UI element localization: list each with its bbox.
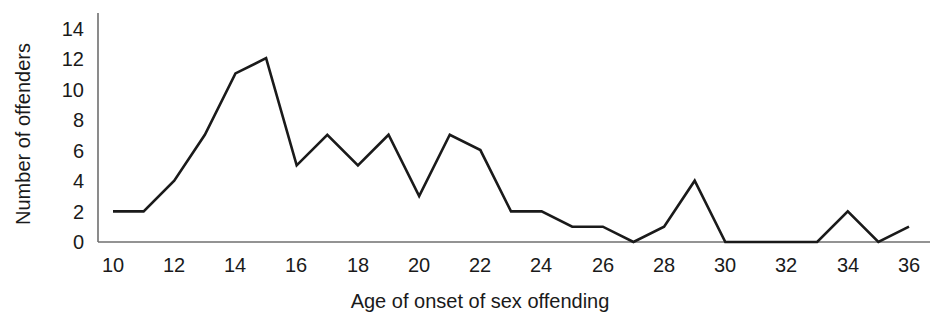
- y-tick-label: 0: [73, 231, 84, 253]
- chart-figure: Number of offenders 14 12 10 8 6 4 2 0 1…: [0, 0, 948, 329]
- x-tick-label: 32: [775, 254, 797, 276]
- y-axis-tick-labels: 14 12 10 8 6 4 2 0: [62, 18, 84, 253]
- x-tick-label: 22: [469, 254, 491, 276]
- data-series-line: [113, 58, 909, 242]
- y-tick-label: 14: [62, 18, 84, 40]
- x-tick-label: 18: [347, 254, 369, 276]
- y-tick-label: 8: [73, 109, 84, 131]
- y-tick-label: 2: [73, 201, 84, 223]
- x-tick-label: 12: [163, 254, 185, 276]
- x-tick-label: 20: [408, 254, 430, 276]
- x-tick-label: 24: [530, 254, 552, 276]
- x-tick-label: 10: [102, 254, 124, 276]
- x-tick-label: 14: [224, 254, 246, 276]
- x-tick-label: 36: [898, 254, 920, 276]
- x-tick-label: 26: [592, 254, 614, 276]
- x-axis-title: Age of onset of sex offending: [351, 290, 610, 312]
- y-tick-label: 10: [62, 79, 84, 101]
- x-tick-label: 16: [285, 254, 307, 276]
- y-axis-title: Number of offenders: [12, 43, 34, 225]
- y-tick-label: 6: [73, 140, 84, 162]
- y-tick-label: 4: [73, 170, 84, 192]
- x-axis-tick-labels: 10 12 14 16 18 20 22 24 26 28 30 32 34 3…: [102, 254, 920, 276]
- x-tick-label: 34: [837, 254, 859, 276]
- x-tick-label: 28: [653, 254, 675, 276]
- line-chart: Number of offenders 14 12 10 8 6 4 2 0 1…: [0, 0, 948, 329]
- x-tick-label: 30: [714, 254, 736, 276]
- y-tick-label: 12: [62, 48, 84, 70]
